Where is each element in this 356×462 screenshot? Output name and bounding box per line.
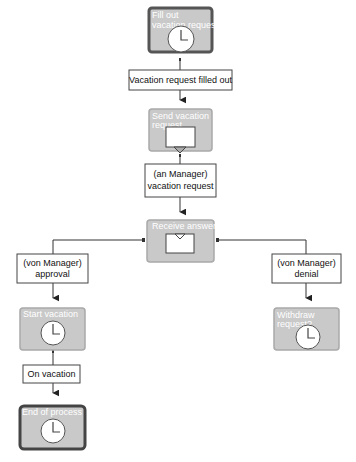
step-label-line-1: Start vacation <box>23 309 78 319</box>
data-object-label-line-1: (von Manager) <box>23 258 82 268</box>
data-object-label-line-2: vacation request <box>147 181 214 191</box>
step-withdraw-request[interactable]: Withdraw request? <box>274 308 339 350</box>
step-label-line-1: End of process <box>22 407 83 417</box>
clock-icon <box>41 419 65 443</box>
step-label-line-1: Fill out <box>152 10 179 20</box>
data-object-approval[interactable]: (von Manager) approval <box>17 254 88 283</box>
step-label-line-1: Receive answer <box>152 221 216 231</box>
data-object-label-line-2: approval <box>35 269 70 279</box>
process-diagram: Fill out vacation request Send vacation … <box>0 0 356 462</box>
step-fill-out-vacation-request[interactable]: Fill out vacation request <box>149 8 219 52</box>
arrow-tip-right <box>216 238 219 242</box>
arrow-tip-send <box>179 154 181 157</box>
arrow-tip-left <box>142 238 145 242</box>
arrow-tip-fillout <box>179 58 181 61</box>
data-object-on-vacation[interactable]: On vacation <box>23 365 80 383</box>
clock-icon <box>296 325 320 349</box>
step-send-vacation-request[interactable]: Send vacation request <box>149 109 212 153</box>
data-object-denial[interactable]: (von Manager) denial <box>272 254 341 283</box>
data-object-label: Vacation request filled out <box>129 75 232 85</box>
step-receive-answer[interactable]: Receive answer <box>147 220 216 262</box>
data-object-label-line-2: denial <box>294 269 318 279</box>
data-object-vacation-request-filled-out[interactable]: Vacation request filled out <box>129 70 232 90</box>
receive-message-icon <box>166 234 194 253</box>
step-end-of-process[interactable]: End of process <box>20 406 85 449</box>
clock-icon <box>168 26 194 52</box>
data-object-label-line-1: (von Manager) <box>277 258 336 268</box>
data-object-manager-vacation-request[interactable]: (an Manager) vacation request <box>145 164 216 197</box>
data-object-label: On vacation <box>27 369 75 379</box>
step-start-vacation[interactable]: Start vacation <box>20 308 85 350</box>
data-object-label-line-1: (an Manager) <box>153 169 207 179</box>
clock-icon <box>41 321 65 345</box>
